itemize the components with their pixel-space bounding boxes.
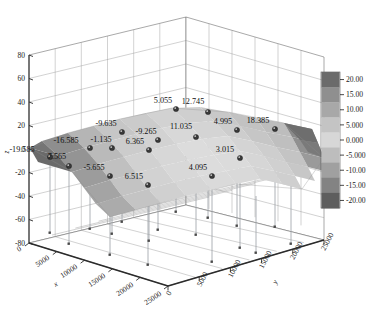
colorbar-band bbox=[321, 163, 339, 179]
data-point-marker bbox=[173, 106, 178, 111]
marker-highlight bbox=[146, 183, 148, 185]
marker-highlight bbox=[108, 174, 110, 176]
colorbar-tick-label: -20.00 bbox=[346, 196, 366, 205]
data-point-marker bbox=[209, 173, 214, 178]
colorbar-tick-label: 10.00 bbox=[346, 105, 363, 114]
z-tick-1: 60 bbox=[18, 74, 26, 83]
colorbar-tick-label: 5.000 bbox=[346, 121, 363, 130]
data-point-label: 3.015 bbox=[216, 145, 234, 154]
data-point-marker bbox=[119, 129, 124, 134]
data-point-marker bbox=[146, 147, 151, 152]
z-tick-2: 40 bbox=[18, 98, 26, 107]
surface-3d-plot: -19.5857.565-16.585-1.135-9.635-5.6556.3… bbox=[0, 0, 374, 334]
marker-highlight bbox=[120, 130, 122, 132]
marker-highlight bbox=[67, 164, 69, 166]
marker-highlight bbox=[156, 138, 158, 140]
data-point-label: 6.515 bbox=[125, 172, 143, 181]
marker-highlight bbox=[88, 146, 90, 148]
data-point-label: -9.635 bbox=[95, 119, 116, 128]
data-point-label: 11.035 bbox=[170, 122, 192, 131]
marker-highlight bbox=[147, 148, 149, 150]
marker-highlight bbox=[273, 127, 275, 129]
z-axis-label: z bbox=[2, 150, 11, 154]
z-tick-4: 0 bbox=[21, 145, 25, 154]
data-point-label: 7.565 bbox=[48, 152, 66, 161]
colorbar-band bbox=[321, 193, 339, 209]
data-point-marker bbox=[145, 182, 150, 187]
data-point-marker bbox=[234, 127, 239, 132]
marker-highlight bbox=[194, 135, 196, 137]
data-point-marker bbox=[205, 109, 210, 114]
colorbar-tick-label: 15.00 bbox=[346, 90, 363, 99]
marker-highlight bbox=[238, 156, 240, 158]
data-point-label: 18.385 bbox=[247, 116, 270, 125]
colorbar-band bbox=[321, 117, 339, 133]
data-point-marker bbox=[272, 126, 277, 131]
colorbar-tick-label: 0.000 bbox=[346, 136, 363, 145]
colorbar-band bbox=[321, 87, 339, 103]
data-point-marker bbox=[87, 145, 92, 150]
data-point-marker bbox=[193, 134, 198, 139]
marker-highlight bbox=[110, 146, 112, 148]
colorbar-band bbox=[321, 148, 339, 164]
data-point-label: 4.995 bbox=[214, 117, 232, 126]
data-point-marker bbox=[155, 137, 160, 142]
z-tick-7: -60 bbox=[15, 215, 25, 224]
colorbar-band bbox=[321, 72, 339, 88]
colorbar-tick-label: -15.00 bbox=[346, 181, 366, 190]
z-tick-5: -20 bbox=[15, 168, 25, 177]
data-point-marker bbox=[107, 173, 112, 178]
data-point-label: 4.095 bbox=[189, 163, 207, 172]
colorbar-band bbox=[321, 178, 339, 194]
data-point-label: 5.055 bbox=[154, 96, 172, 105]
colorbar-tick-label: 20.00 bbox=[346, 75, 363, 84]
data-point-label: 6.365 bbox=[126, 137, 144, 146]
marker-highlight bbox=[235, 128, 237, 130]
z-tick-0: 80 bbox=[18, 51, 26, 60]
data-point-label: 12.745 bbox=[182, 97, 205, 106]
colorbar-tick-label: -5.000 bbox=[346, 151, 366, 160]
data-point-marker bbox=[66, 163, 71, 168]
marker-highlight bbox=[174, 107, 176, 109]
data-point-marker bbox=[109, 145, 114, 150]
marker-highlight bbox=[206, 110, 208, 112]
z-tick-3: 20 bbox=[18, 121, 26, 130]
data-point-label: -16.585 bbox=[53, 136, 78, 145]
data-point-label: -9.265 bbox=[135, 127, 156, 136]
data-point-marker bbox=[237, 155, 242, 160]
z-tick-6: -40 bbox=[15, 192, 25, 201]
colorbar-tick-label: -10.00 bbox=[346, 166, 366, 175]
colorbar-band bbox=[321, 102, 339, 118]
chart-root: -19.5857.565-16.585-1.135-9.635-5.6556.3… bbox=[0, 0, 374, 334]
data-point-label: -5.655 bbox=[83, 163, 104, 172]
marker-highlight bbox=[210, 174, 212, 176]
colorbar-band bbox=[321, 132, 339, 148]
data-point-label: -1.135 bbox=[90, 135, 111, 144]
